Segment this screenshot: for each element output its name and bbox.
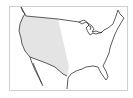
western-region-shade [19, 14, 69, 76]
us-map [0, 0, 133, 98]
great-lakes [79, 22, 102, 35]
